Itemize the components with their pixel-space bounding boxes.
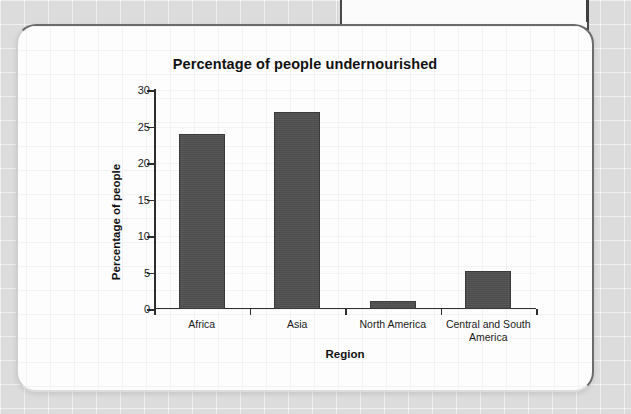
x-tick — [536, 309, 538, 315]
x-tick — [345, 309, 347, 315]
x-tick-label: Central and South America — [440, 318, 536, 344]
x-tick-label: Asia — [249, 318, 345, 331]
y-tick-label: 0 — [144, 303, 150, 315]
y-tick-label: 25 — [138, 121, 150, 133]
y-tick-label: 15 — [138, 194, 150, 206]
bar — [370, 301, 416, 309]
bar — [465, 271, 511, 309]
y-tick-label: 5 — [144, 267, 150, 279]
x-tick — [250, 309, 252, 315]
bar — [274, 112, 320, 309]
bar-chart: Percentage of people undernourished Perc… — [18, 26, 592, 390]
y-tick-label: 30 — [138, 84, 150, 96]
x-tick-label: Africa — [154, 318, 250, 331]
window-frame-edge — [586, 0, 589, 22]
y-tick-label: 10 — [138, 230, 150, 242]
y-gridline — [156, 127, 536, 128]
y-tick-label: 20 — [138, 157, 150, 169]
plot-area: 051015202530 AfricaAsiaNorth AmericaCent… — [154, 90, 536, 309]
x-axis-title: Region — [154, 348, 536, 360]
y-axis-title: Percentage of people — [110, 164, 122, 280]
x-tick — [441, 309, 443, 315]
x-tick-label: North America — [345, 318, 441, 331]
y-gridline — [156, 90, 536, 91]
x-tick — [154, 309, 156, 315]
bar — [179, 134, 225, 309]
chart-title: Percentage of people undernourished — [18, 56, 592, 72]
chart-card: Percentage of people undernourished Perc… — [16, 24, 594, 392]
